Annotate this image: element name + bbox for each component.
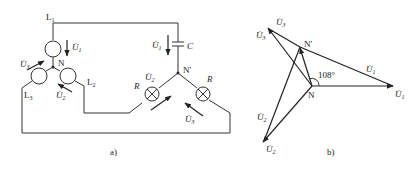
label-r-left: R — [133, 81, 140, 91]
phasor-u3-prime — [269, 29, 300, 47]
angle-label: 108° — [318, 70, 336, 80]
label-n: N — [58, 58, 65, 68]
label-l2: L2 — [87, 77, 96, 88]
phasor-u2 — [263, 86, 312, 142]
label-r-right: R — [206, 74, 213, 84]
label-c: C — [187, 41, 194, 51]
label-b-u3: U̇3 — [256, 30, 266, 41]
label-l3: L3 — [24, 90, 33, 101]
circuit-figure: L1 L2 L3 N N' C R R U̇1 U̇3 U̇2 U̇1 U̇2 … — [0, 0, 420, 170]
label-b-n: N — [308, 90, 315, 100]
arrow-u2-prime — [151, 96, 171, 110]
phasor-nn-prime — [300, 48, 312, 86]
figure-a-circuit: L1 L2 L3 N N' C R R U̇1 U̇3 U̇2 U̇1 U̇2 … — [20, 12, 230, 157]
wire-coil3-out — [22, 81, 32, 88]
figure-b-phasor-diagram: 108° N' N U̇1 U̇1 U̇3 U̇3 U̇2 U̇2 b) — [256, 17, 405, 157]
label-b-u1-prime: U̇1 — [366, 64, 376, 75]
phasor-u2-prime — [264, 47, 300, 141]
label-u2-prime: U̇2 — [145, 72, 155, 83]
wire-nprime-to-lamp-right — [178, 73, 197, 88]
label-u1: U̇1 — [72, 42, 82, 53]
label-b-u2-prime: U̇2 — [257, 112, 267, 123]
label-u3: U̇3 — [20, 59, 30, 70]
wire-coil2-out — [75, 81, 84, 86]
source-coil-1 — [45, 41, 61, 57]
wire-to-lamp-left — [129, 103, 142, 113]
wire-nprime-to-lamp-left — [159, 73, 178, 88]
label-b-u1: U̇1 — [395, 89, 405, 100]
phasor-u3 — [268, 28, 312, 86]
label-l1: L1 — [46, 12, 55, 23]
source-coil-2 — [60, 68, 76, 84]
label-u2: U̇2 — [56, 90, 66, 101]
label-b-u3-prime: U̇3 — [276, 17, 286, 28]
label-u1-prime: U̇1 — [152, 40, 162, 51]
label-b-nprime: N' — [304, 39, 312, 49]
label-nprime: N' — [183, 65, 191, 75]
source-coil-3 — [31, 68, 47, 84]
wire-lamp-right-out — [209, 100, 230, 113]
label-u3-prime: U̇3 — [185, 114, 195, 125]
wire-n-to-coil3 — [46, 67, 53, 71]
phasor-u1-prime — [300, 47, 393, 86]
caption-a: a) — [110, 147, 117, 157]
caption-b: b) — [327, 147, 335, 157]
label-b-u2: U̇2 — [266, 144, 276, 155]
